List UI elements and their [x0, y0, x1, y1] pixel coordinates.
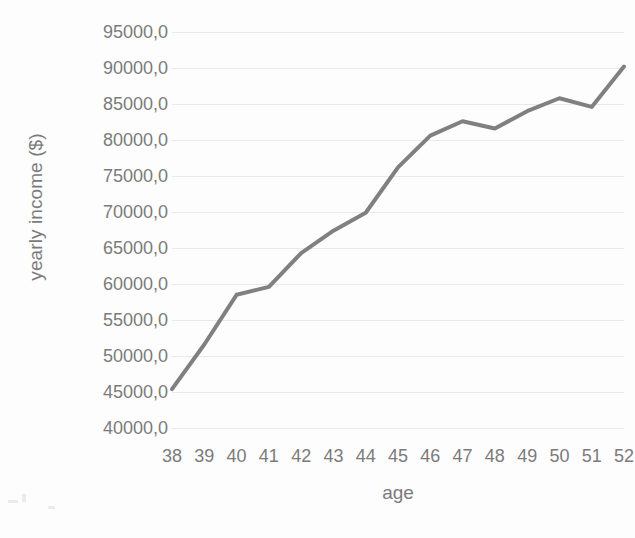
x-axis-title: age	[172, 482, 624, 504]
income-line-series	[172, 32, 624, 428]
x-axis-tick-label: 38	[157, 446, 187, 467]
x-axis-tick-labels: 383940414243444546474849505152	[172, 446, 624, 470]
y-axis-title: yearly income ($)	[25, 107, 47, 307]
x-axis-tick-label: 44	[351, 446, 381, 467]
x-axis-tick-label: 46	[415, 446, 445, 467]
income-line-path	[172, 67, 624, 390]
scan-speckle	[22, 494, 26, 502]
y-axis-tick-labels: 95000,090000,085000,080000,075000,070000…	[62, 32, 168, 428]
x-axis-tick-label: 45	[383, 446, 413, 467]
y-axis-tick-label: 80000,0	[62, 130, 168, 151]
x-axis-tick-label: 50	[544, 446, 574, 467]
y-axis-tick-label: 95000,0	[62, 22, 168, 43]
x-axis-tick-label: 42	[286, 446, 316, 467]
scan-speckle	[8, 500, 18, 503]
x-axis-tick-label: 39	[189, 446, 219, 467]
gridline	[172, 428, 624, 429]
x-axis-tick-label: 52	[609, 446, 635, 467]
y-axis-tick-label: 55000,0	[62, 310, 168, 331]
y-axis-tick-label: 45000,0	[62, 382, 168, 403]
x-axis-tick-label: 40	[222, 446, 252, 467]
y-axis-tick-label: 60000,0	[62, 274, 168, 295]
y-axis-tick-label: 85000,0	[62, 94, 168, 115]
y-axis-tick-label: 40000,0	[62, 418, 168, 439]
scan-speckle	[48, 506, 55, 509]
x-axis-tick-label: 43	[318, 446, 348, 467]
x-axis-tick-label: 47	[448, 446, 478, 467]
y-axis-tick-label: 90000,0	[62, 58, 168, 79]
x-axis-tick-label: 49	[512, 446, 542, 467]
y-axis-tick-label: 50000,0	[62, 346, 168, 367]
y-axis-tick-label: 65000,0	[62, 238, 168, 259]
x-axis-tick-label: 41	[254, 446, 284, 467]
line-chart-figure: yearly income ($) 95000,090000,085000,08…	[0, 0, 635, 538]
x-axis-tick-label: 48	[480, 446, 510, 467]
x-axis-tick-label: 51	[577, 446, 607, 467]
y-axis-tick-label: 70000,0	[62, 202, 168, 223]
y-axis-tick-label: 75000,0	[62, 166, 168, 187]
plot-area	[172, 32, 624, 428]
